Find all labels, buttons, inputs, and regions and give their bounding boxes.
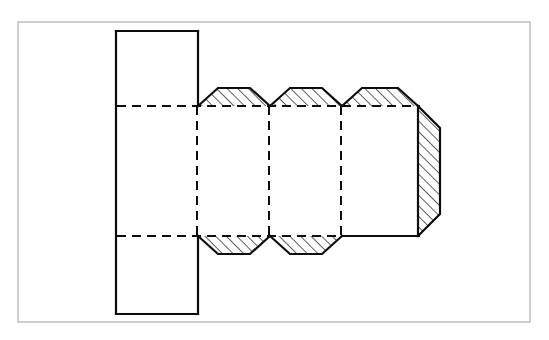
hidden-lines-group (117, 106, 420, 236)
drawing-canvas (0, 0, 549, 340)
drawing-border (18, 22, 530, 322)
hatch-region-lower-thread-1 (190, 228, 285, 268)
technical-drawing (0, 0, 549, 340)
section-hatch-group (190, 80, 452, 268)
hatch-region-lower-thread-2 (262, 228, 357, 268)
bolt-head-outline (116, 31, 198, 314)
